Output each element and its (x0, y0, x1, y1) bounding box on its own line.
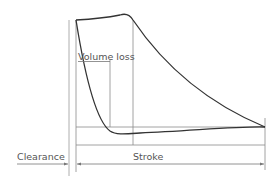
stroke-label: Stroke (133, 151, 163, 162)
loss-word: loss (113, 51, 134, 62)
clearance-label: Clearance (17, 151, 65, 162)
volume-word: Volume (78, 51, 113, 62)
discharge-compression-curve (76, 14, 265, 127)
indicator-diagram: Volume loss Clearance Stroke (0, 0, 278, 179)
expansion-suction-curve (76, 20, 265, 134)
volume-loss-label: Volume loss (78, 51, 135, 62)
